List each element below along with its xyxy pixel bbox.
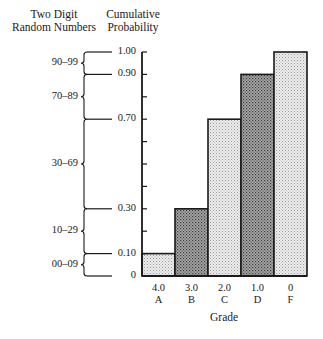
random-range-label: 00–09 — [28, 258, 78, 269]
x-tick-D: 1.0D — [241, 282, 274, 306]
x-tick-B: 3.0B — [175, 282, 208, 306]
brace — [81, 52, 87, 74]
brace — [81, 209, 87, 254]
brace — [81, 74, 87, 119]
x-tick-A: 4.0A — [142, 282, 175, 306]
random-range-label: 30–69 — [28, 157, 78, 168]
y-tick-label: 0.30 — [100, 202, 136, 213]
x-axis-label: Grade — [210, 311, 238, 323]
y-tick-label: 0 — [100, 269, 136, 280]
x-tick-C: 2.0C — [208, 282, 241, 306]
bar-F — [274, 52, 307, 276]
y-tick-label: 0.10 — [100, 247, 136, 258]
y-tick-label: 0.70 — [100, 112, 136, 123]
x-tick-F: 0F — [274, 282, 307, 306]
random-range-label: 90–99 — [28, 56, 78, 67]
random-range-label: 70–89 — [28, 90, 78, 101]
y-tick-label: 0.90 — [100, 67, 136, 78]
brace — [81, 119, 87, 209]
bar-D — [241, 74, 274, 276]
random-range-label: 10–29 — [28, 224, 78, 235]
brace — [81, 254, 87, 276]
y-tick-label: 1.00 — [100, 45, 136, 56]
bar-B — [175, 209, 208, 276]
bar-C — [208, 119, 241, 276]
bar-A — [142, 254, 175, 276]
